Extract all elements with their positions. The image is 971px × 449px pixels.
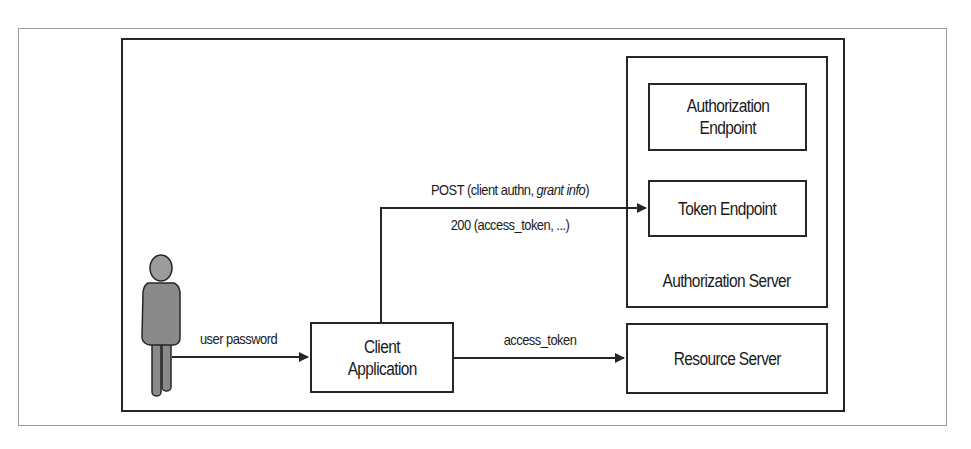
post-request-label-suffix: ) <box>585 181 589 198</box>
post-request-label: POST (client authn, grant info) <box>411 181 609 198</box>
user-password-label: user password <box>189 330 288 347</box>
post-request-label-italic: grant info <box>537 181 586 198</box>
token-response-label: 200 (access_token, ...) <box>424 216 596 233</box>
person-icon <box>142 255 180 396</box>
post-request-label-prefix: POST (client authn, <box>431 181 537 198</box>
access-token-label: access_token <box>480 331 600 348</box>
